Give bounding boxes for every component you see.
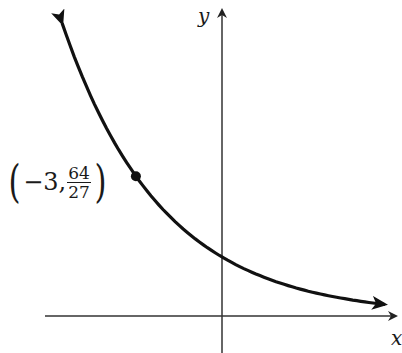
open-paren: ( xyxy=(9,160,21,204)
point-x-value: −3, xyxy=(23,168,66,196)
close-paren: ) xyxy=(94,160,106,204)
point-y-fraction: 64 27 xyxy=(67,164,91,201)
fraction-numerator: 64 xyxy=(67,164,91,183)
fraction-denominator: 27 xyxy=(68,183,90,201)
y-axis-label: y xyxy=(198,4,209,28)
highlighted-point xyxy=(131,171,141,181)
point-annotation: ( −3, 64 27 ) xyxy=(6,160,109,204)
exponential-curve xyxy=(62,23,385,304)
x-axis-label: x xyxy=(391,326,402,350)
